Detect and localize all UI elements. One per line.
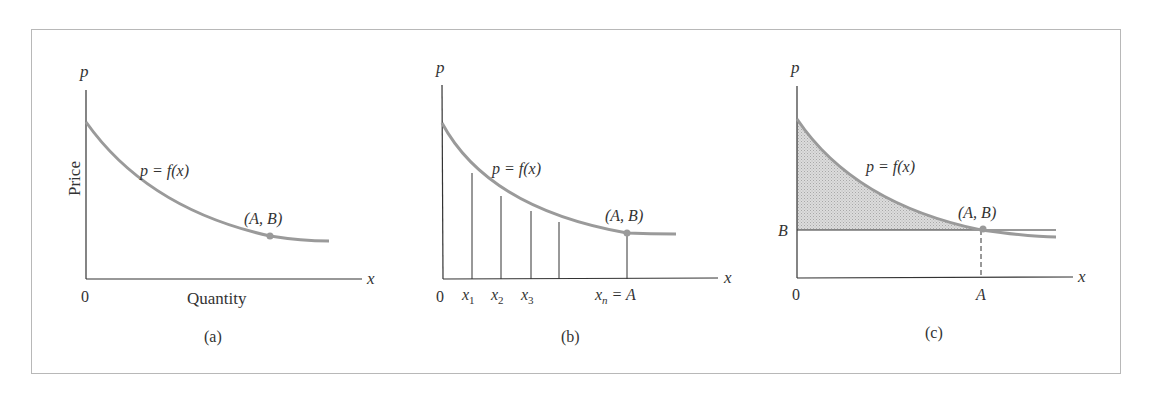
curve-label: p = f(x) <box>139 162 189 180</box>
y-axis-title: Price <box>65 161 84 196</box>
y-axis-letter: p <box>79 62 89 81</box>
panel-caption: (c) <box>925 324 943 342</box>
y-axis-letter: p <box>790 58 800 77</box>
origin-label: 0 <box>436 288 444 305</box>
demand-curve-figure: p x 0 Price Quantity p = f(x) (A, B) (a)… <box>0 0 1154 394</box>
panel-b: p x 0 x1 x2 x3 xn= A p = f(x) (A, B) (b) <box>435 58 732 346</box>
equilibrium-point <box>624 230 631 237</box>
x-axis-letter: x <box>366 269 375 288</box>
x-axis <box>443 278 718 279</box>
panel-caption: (b) <box>561 328 580 346</box>
x-axis-letter: x <box>1077 267 1086 286</box>
point-label: (A, B) <box>605 207 643 225</box>
demand-curve <box>86 122 329 241</box>
panel-c: p x 0 B A p = f(x) (A, B) (c) <box>778 58 1086 342</box>
origin-label: 0 <box>792 286 800 303</box>
panel-caption: (a) <box>204 328 222 346</box>
origin-label: 0 <box>81 288 89 305</box>
y-tick-label-b: B <box>778 222 788 239</box>
tick-label-xn: xn= A <box>594 286 636 306</box>
panel-a: p x 0 Price Quantity p = f(x) (A, B) (a) <box>65 62 375 346</box>
x-tick-label-a: A <box>975 286 986 303</box>
equilibrium-point <box>267 233 274 240</box>
y-axis-letter: p <box>435 58 445 77</box>
x-axis-letter: x <box>723 268 732 287</box>
x-axis <box>797 277 1073 278</box>
tick-label-x3: x3 <box>520 286 534 306</box>
curve-label: p = f(x) <box>865 158 915 176</box>
x-axis-title: Quantity <box>187 289 247 308</box>
point-label: (A, B) <box>244 210 282 228</box>
curve-label: p = f(x) <box>491 160 541 178</box>
y-axis <box>442 85 443 279</box>
point-label: (A, B) <box>958 204 996 222</box>
tick-label-x1: x1 <box>461 286 475 306</box>
tick-label-x2: x2 <box>490 286 504 306</box>
equilibrium-point <box>980 226 987 233</box>
